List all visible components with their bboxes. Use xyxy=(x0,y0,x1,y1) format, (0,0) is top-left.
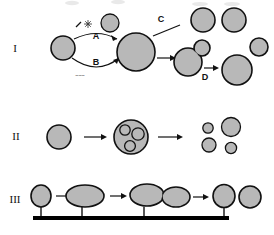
arrow-ii-2-head xyxy=(177,134,183,140)
cell-iii-2-elongated xyxy=(66,185,104,207)
label-stimulus-annotation: ~~~ xyxy=(75,72,85,78)
cell-i-start xyxy=(51,36,75,60)
arrow-i-to-separated-head xyxy=(213,65,219,71)
cell-iii-3-dividing xyxy=(130,184,190,216)
label-pathway-c: C xyxy=(158,14,165,24)
substrate-bar xyxy=(33,216,229,220)
pointer-line-c xyxy=(153,25,180,36)
row-iii: III xyxy=(10,184,262,220)
cell-iii-1 xyxy=(31,185,51,207)
cell-i-topright-1 xyxy=(191,8,215,32)
cell-i-budding xyxy=(174,40,210,76)
star-burst-icon xyxy=(84,20,92,28)
arrow-iii-2-head xyxy=(121,193,127,199)
spore-ii-1 xyxy=(120,125,130,135)
released-spore-1 xyxy=(203,123,213,133)
cell-i-topright-2 xyxy=(222,8,246,32)
spore-ii-2 xyxy=(132,128,144,140)
diagonal-tick-icon xyxy=(76,22,81,27)
cell-iii-4 xyxy=(213,185,235,208)
row-numeral-ii: II xyxy=(12,130,20,142)
label-pathway-d: D xyxy=(202,72,209,82)
cell-i-small-top xyxy=(101,14,119,32)
cell-ii-start xyxy=(47,125,71,149)
row-i: I A B ~~~ C xyxy=(13,8,268,85)
ascus-ii xyxy=(114,120,148,154)
cell-i-daughter-small xyxy=(250,38,268,56)
row-numeral-i: I xyxy=(13,42,17,54)
label-pathway-a: A xyxy=(93,31,100,41)
released-spore-4 xyxy=(225,142,236,153)
row-numeral-iii: III xyxy=(10,193,21,205)
cell-i-enlarged xyxy=(117,33,155,71)
arrow-iii-3-head xyxy=(203,194,209,200)
arrow-ii-1-head xyxy=(101,134,107,140)
cell-iii-5 xyxy=(239,186,261,208)
row-ii: II xyxy=(12,118,240,155)
released-spores-ii xyxy=(202,118,241,154)
released-spore-2 xyxy=(222,118,241,137)
schematic-svg: I A B ~~~ C xyxy=(0,0,274,235)
released-spore-3 xyxy=(202,138,216,152)
figure-canvas: I A B ~~~ C xyxy=(0,0,274,235)
cell-i-daughter-large xyxy=(222,55,252,85)
label-pathway-b: B xyxy=(93,57,100,67)
top-edge-artifacts xyxy=(65,0,240,6)
spore-ii-3 xyxy=(125,141,136,152)
